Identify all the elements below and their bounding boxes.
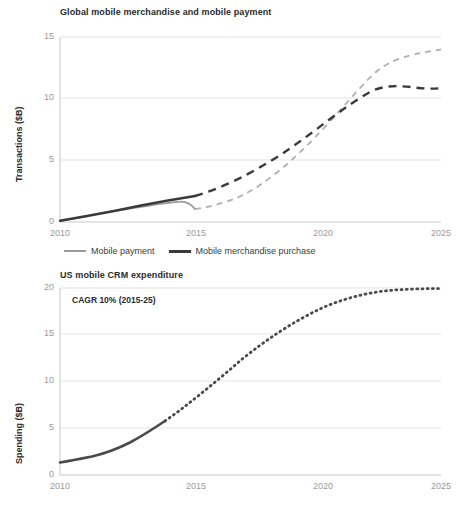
plot-area-top: [0, 0, 462, 264]
series-line-mobile-merchandise-actual: [60, 196, 195, 221]
chart-panel-global-mobile: Global mobile merchandise and mobile pay…: [0, 0, 462, 264]
legend-top: Mobile payment Mobile merchandise purcha…: [64, 246, 316, 256]
plot-area-bottom: [0, 264, 462, 509]
legend-entry-mobile-payment[interactable]: Mobile payment: [64, 246, 155, 256]
series-line-mobile-merchandise-forecast: [195, 86, 441, 196]
legend-swatch-icon-mobile-payment: [64, 250, 86, 252]
chart-panel-us-mobile-crm: US mobile CRM expenditure Spending ($B) …: [0, 264, 462, 509]
legend-label-mobile-merchandise-purchase: Mobile merchandise purchase: [196, 246, 316, 256]
series-line-crm-forecast: [165, 289, 441, 422]
series-line-crm-actual: [60, 421, 165, 463]
figure-container: Global mobile merchandise and mobile pay…: [0, 0, 462, 509]
legend-label-mobile-payment: Mobile payment: [91, 246, 155, 256]
legend-swatch-icon-mobile-merchandise-purchase: [169, 250, 191, 253]
legend-entry-mobile-merchandise-purchase[interactable]: Mobile merchandise purchase: [169, 246, 316, 256]
series-helper-hidden: [60, 209, 195, 221]
